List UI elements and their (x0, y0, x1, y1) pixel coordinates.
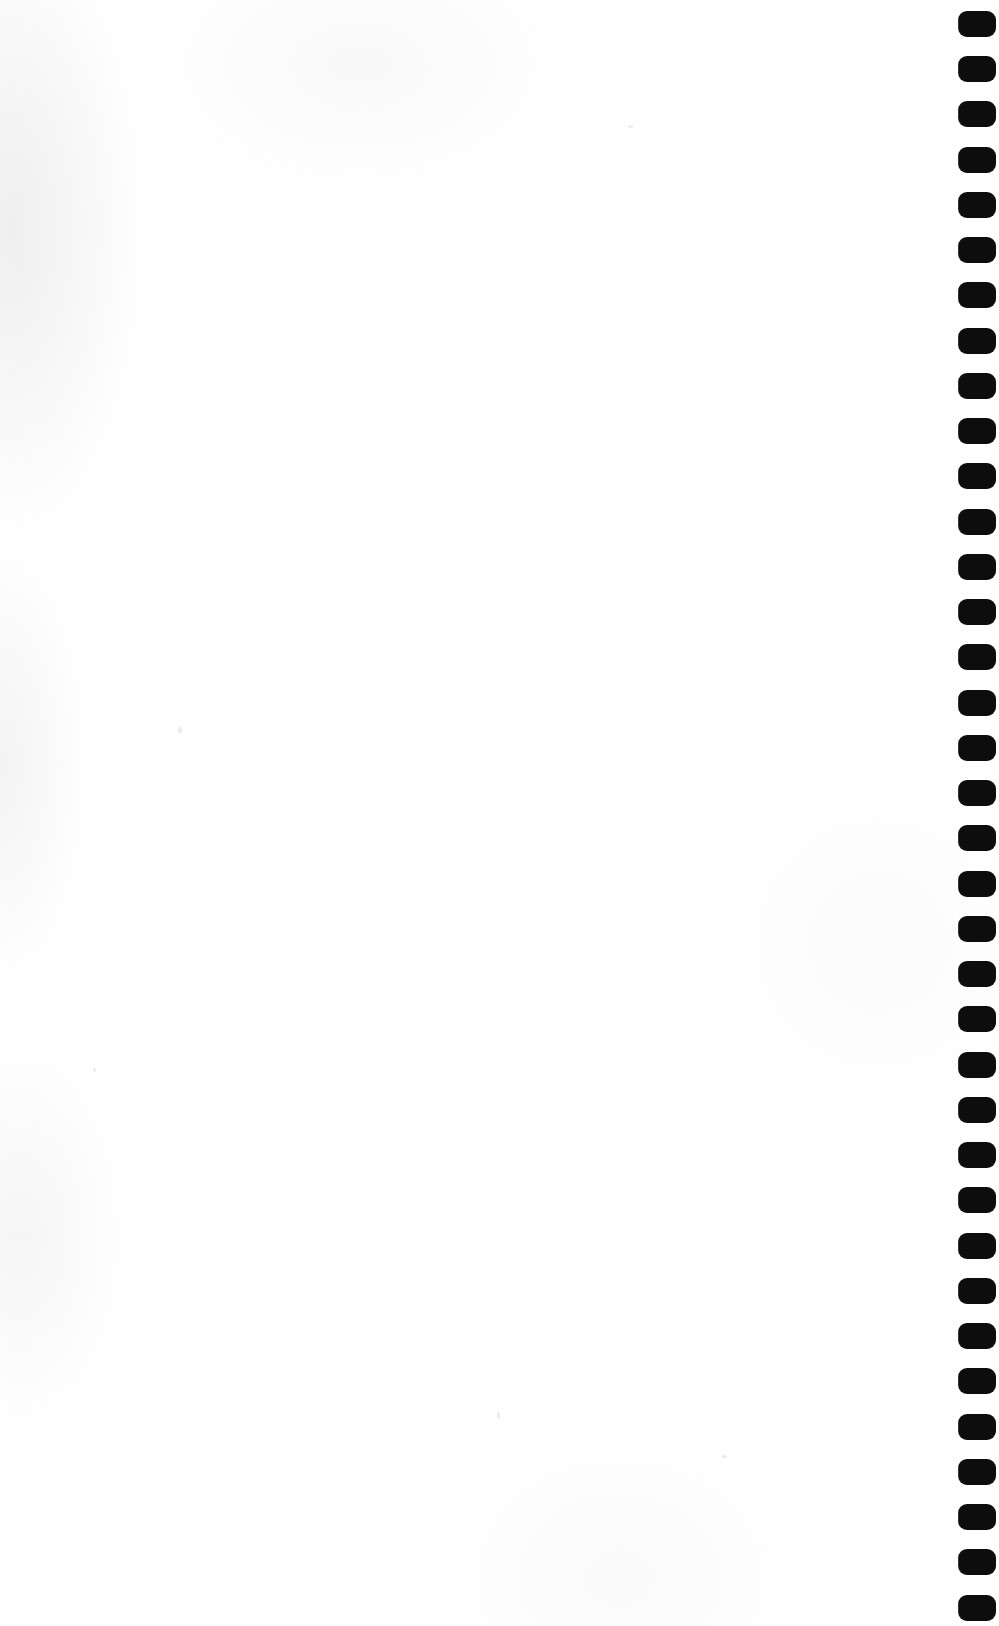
binding-hole (958, 780, 996, 806)
binding-hole (958, 961, 996, 987)
binding-hole (958, 1187, 996, 1213)
binding-hole (958, 1459, 996, 1485)
binding-hole (958, 328, 996, 354)
binding-hole (958, 1595, 996, 1621)
binding-hole (958, 644, 996, 670)
binding-hole (958, 871, 996, 897)
binding-hole (958, 1549, 996, 1575)
binding-hole (958, 56, 996, 82)
binding-hole (958, 825, 996, 851)
binding-hole (958, 373, 996, 399)
scanned-page (0, 0, 999, 1626)
binding-hole (958, 1414, 996, 1440)
binding-hole (958, 1323, 996, 1349)
binding-hole (958, 554, 996, 580)
binding-hole (958, 1052, 996, 1078)
binding-hole (958, 1006, 996, 1032)
binding-hole (958, 735, 996, 761)
binding-hole (958, 1278, 996, 1304)
binding-hole (958, 237, 996, 263)
binding-hole (958, 1233, 996, 1259)
binding-hole (958, 599, 996, 625)
binding-hole-column (0, 0, 999, 1626)
binding-hole (958, 282, 996, 308)
binding-hole (958, 192, 996, 218)
binding-hole (958, 509, 996, 535)
binding-hole (958, 1504, 996, 1530)
binding-hole (958, 916, 996, 942)
binding-hole (958, 101, 996, 127)
binding-hole (958, 690, 996, 716)
binding-hole (958, 1142, 996, 1168)
binding-hole (958, 1368, 996, 1394)
binding-hole (958, 463, 996, 489)
binding-hole (958, 1097, 996, 1123)
binding-hole (958, 147, 996, 173)
binding-hole (958, 11, 996, 37)
binding-hole (958, 418, 996, 444)
